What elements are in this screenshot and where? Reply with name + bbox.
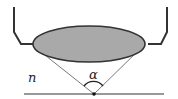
angle-arc bbox=[84, 81, 103, 86]
refractive-index-label: n bbox=[28, 70, 36, 85]
aperture-angle-label: α bbox=[89, 67, 98, 82]
focal-point bbox=[92, 92, 96, 96]
objective-housing-left bbox=[14, 7, 34, 44]
objective-diagram: n α bbox=[0, 0, 178, 99]
objective-housing-right bbox=[148, 7, 167, 44]
lens bbox=[33, 26, 145, 62]
